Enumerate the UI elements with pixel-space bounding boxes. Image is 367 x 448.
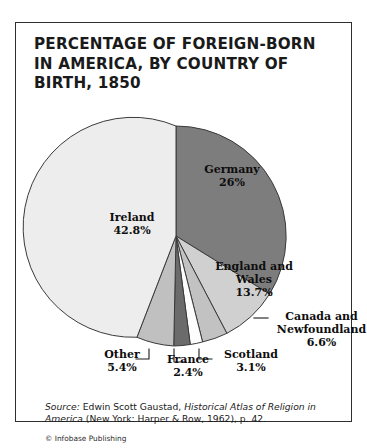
slice-label-germany: Germany 26% [193, 163, 271, 189]
figure-frame: PERCENTAGE OF FOREIGN-BORN IN AMERICA, B… [15, 22, 352, 422]
source-author: Edwin Scott Gaustad, [80, 401, 184, 412]
slice-label-france: France 2.4% [157, 353, 219, 379]
source-note: Source: Edwin Scott Gaustad, Historical … [45, 401, 345, 445]
slice-label-england-and-wales: England and Wales 13.7% [214, 260, 294, 300]
copyright-notice: © Infobase Publishing [45, 433, 345, 445]
slice-label-ireland: Ireland 42.8% [96, 211, 168, 237]
slice-label-canada-and-newfoundland: Canada and Newfoundland 6.6% [269, 310, 367, 350]
source-publication: (New York: Harper & Row, 1962), p. 42. [86, 413, 266, 424]
slice-label-other: Other 5.4% [91, 348, 153, 374]
source-prefix: Source: [45, 401, 80, 412]
slice-label-scotland: Scotland 3.1% [215, 348, 287, 374]
